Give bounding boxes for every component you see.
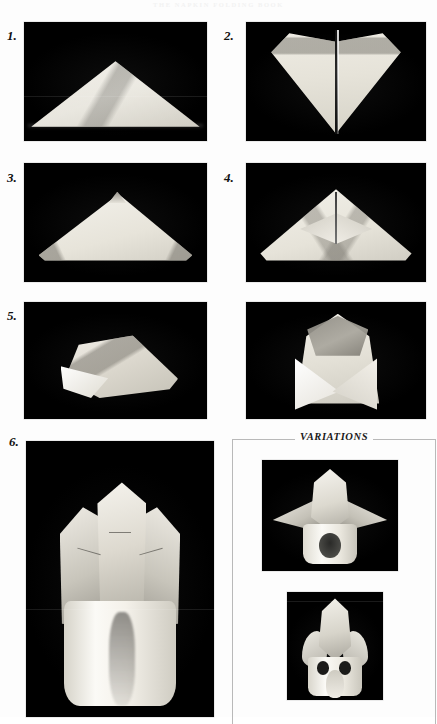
scan-artifact	[287, 601, 383, 602]
running-head: THE NAPKIN FOLDING BOOK	[0, 1, 437, 8]
step-photo-3	[24, 163, 207, 282]
step-number-4: 4.	[224, 170, 234, 186]
napkin-stitch-detail	[109, 532, 132, 533]
step-photo-5	[24, 302, 207, 419]
napkin-peak-centre	[97, 482, 146, 614]
variations-label: VARIATIONS	[232, 431, 436, 442]
step-photo-6	[26, 441, 214, 717]
variation-photo-2	[287, 592, 383, 700]
napkin-centre-fold-highlight	[337, 30, 339, 134]
step-number-2: 2.	[224, 28, 234, 44]
step-photo-2	[246, 22, 426, 141]
step-number-6: 6.	[9, 434, 19, 450]
napkin-base-shadow	[109, 612, 135, 706]
napkin-front-fold	[326, 670, 343, 698]
scan-artifact	[26, 609, 214, 610]
step-number-3: 3.	[7, 170, 17, 186]
step-number-1: 1.	[7, 28, 17, 44]
napkin-centre-fold	[335, 192, 337, 244]
variation-photo-1	[262, 460, 398, 571]
step-photo-4	[246, 163, 426, 282]
scan-artifact	[24, 96, 207, 97]
napkin-cuff-opening	[319, 533, 341, 557]
step-photo-1	[24, 22, 207, 141]
step-number-5: 5.	[7, 308, 17, 324]
step-photo-5b	[246, 302, 426, 419]
